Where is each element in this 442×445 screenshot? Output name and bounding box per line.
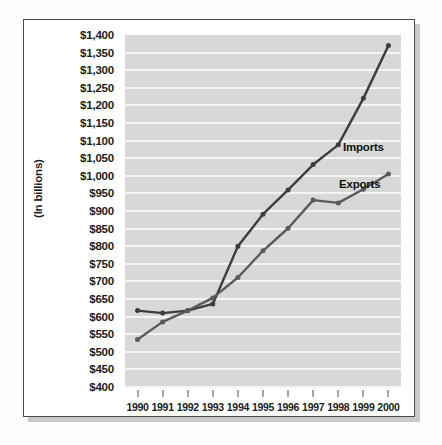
y-tick-label: $950 xyxy=(89,187,114,199)
x-tick-label: 1991 xyxy=(152,401,174,413)
chart-page: (In billions) $1,400$1,350$1,300$1,250$1… xyxy=(0,0,442,445)
y-tick-label: $1,000 xyxy=(80,170,114,182)
x-tick xyxy=(137,390,138,397)
x-tick xyxy=(187,390,188,397)
data-point xyxy=(235,244,240,249)
x-tick xyxy=(338,390,339,397)
data-point xyxy=(235,275,240,280)
data-point xyxy=(135,337,140,342)
data-point xyxy=(386,43,391,48)
x-tick xyxy=(288,390,289,397)
y-tick-label: $650 xyxy=(89,293,114,305)
x-tick-label: 1990 xyxy=(126,401,148,413)
x-tick xyxy=(363,390,364,397)
x-tick-label: 1999 xyxy=(352,401,374,413)
series-label-imports: Imports xyxy=(343,141,384,153)
y-tick-label: $1,300 xyxy=(80,64,114,76)
data-point xyxy=(311,198,316,203)
x-tick-label: 1993 xyxy=(202,401,224,413)
data-point xyxy=(261,212,266,217)
chart-figure-frame: (In billions) $1,400$1,350$1,300$1,250$1… xyxy=(23,19,415,417)
x-tick xyxy=(237,390,238,397)
data-point xyxy=(361,96,366,101)
data-point xyxy=(386,172,391,177)
series-lines xyxy=(125,35,401,387)
x-tick-label: 1994 xyxy=(227,401,249,413)
data-point xyxy=(261,248,266,253)
y-tick-label: $1,100 xyxy=(80,135,114,147)
x-tick xyxy=(162,390,163,397)
data-point xyxy=(336,142,341,147)
series-label-exports: Exports xyxy=(339,178,380,190)
x-tick-label: 1998 xyxy=(327,401,349,413)
y-tick-label: $1,150 xyxy=(80,117,114,129)
y-tick-label: $550 xyxy=(89,328,114,340)
data-point xyxy=(210,295,215,300)
x-tick-label: 1997 xyxy=(302,401,324,413)
x-tick xyxy=(212,390,213,397)
data-point xyxy=(286,226,291,231)
y-tick-label: $750 xyxy=(89,258,114,270)
x-tick-label: 2000 xyxy=(377,401,399,413)
y-tick-label: $900 xyxy=(89,205,114,217)
x-tick-label: 1996 xyxy=(277,401,299,413)
data-point xyxy=(286,187,291,192)
data-point xyxy=(210,301,215,306)
data-point xyxy=(135,308,140,313)
plot-area: Imports Exports xyxy=(125,35,401,387)
y-tick-label: $400 xyxy=(89,381,114,393)
x-tick-label: 1995 xyxy=(252,401,274,413)
y-tick-label: $500 xyxy=(89,346,114,358)
x-tick xyxy=(388,390,389,397)
y-tick-label: $450 xyxy=(89,363,114,375)
y-axis-tick-labels: $1,400$1,350$1,300$1,250$1,200$1,150$1,1… xyxy=(24,20,120,418)
x-tick-label: 1992 xyxy=(177,401,199,413)
y-tick-label: $800 xyxy=(89,240,114,252)
y-tick-label: $600 xyxy=(89,311,114,323)
x-tick xyxy=(263,390,264,397)
y-tick-label: $1,050 xyxy=(80,152,114,164)
x-tick xyxy=(313,390,314,397)
data-point xyxy=(185,308,190,313)
data-point xyxy=(336,200,341,205)
data-point xyxy=(160,319,165,324)
y-tick-label: $1,200 xyxy=(80,99,114,111)
x-axis: 1990199119921993199419951996199719981999… xyxy=(125,387,401,417)
y-tick-label: $700 xyxy=(89,275,114,287)
data-point xyxy=(311,162,316,167)
y-tick-label: $1,400 xyxy=(80,29,114,41)
data-point xyxy=(160,311,165,316)
y-tick-label: $1,350 xyxy=(80,47,114,59)
y-tick-label: $1,250 xyxy=(80,82,114,94)
series-line-exports xyxy=(138,174,389,339)
y-tick-label: $850 xyxy=(89,223,114,235)
